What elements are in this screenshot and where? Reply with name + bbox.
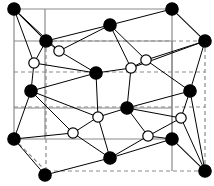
bond-A10-A6: [110, 139, 172, 158]
crystal-lattice-diagram: [0, 0, 214, 186]
bond-B6-A8: [181, 118, 205, 171]
filled-atom-corner-bottom-front-left: [8, 133, 20, 145]
bond-A9-B3: [110, 25, 131, 68]
filled-atom-face-right-upper: [184, 85, 196, 97]
crystal-structure-figure: [0, 0, 214, 186]
filled-atom-edge-top-mid: [104, 19, 116, 31]
filled-atom-corner-top-back-left: [40, 35, 52, 47]
bond-B4-A12: [146, 60, 190, 91]
bond-A11-A5: [14, 91, 31, 139]
bond-A9-B1: [59, 25, 110, 51]
atomic-bonds-group: [14, 9, 205, 175]
filled-atom-corner-top-back-right: [199, 35, 211, 47]
bond-A12-A4: [190, 41, 205, 91]
bond-A1-B1: [14, 9, 59, 51]
bond-A9-B4: [110, 25, 146, 60]
bond-A9-A2: [110, 9, 172, 25]
cell-solid-edges-group: [14, 9, 205, 171]
open-atoms-group: [29, 46, 186, 141]
open-atom-open-center-lower: [93, 112, 103, 122]
filled-atom-interior-upper: [90, 67, 102, 79]
open-atom-open-bottom-right: [143, 131, 153, 141]
filled-atom-edge-bottom-mid: [104, 152, 116, 164]
bond-A12-A14: [127, 91, 190, 108]
filled-atom-corner-bottom-back-left: [39, 169, 51, 181]
bond-A11-A13: [31, 73, 96, 91]
open-atom-open-right-lower: [176, 113, 186, 123]
filled-atom-corner-top-front-right: [166, 3, 178, 15]
bond-A5-A7: [14, 139, 45, 175]
filled-atoms-group: [8, 3, 211, 181]
bond-A11-B5: [31, 91, 98, 117]
filled-atom-corner-top-front-left: [8, 3, 20, 15]
bond-A1-B2: [14, 9, 34, 63]
filled-atom-face-left-upper: [25, 85, 37, 97]
bond-B7-A11: [31, 91, 73, 133]
bond-A2-A4: [172, 9, 205, 41]
open-atom-open-top-right-outer: [141, 55, 151, 65]
bond-A14-B6: [127, 108, 181, 118]
open-atom-open-top-right-inner: [126, 63, 136, 73]
bond-A3-A9: [46, 25, 110, 41]
bond-A7-A10: [45, 158, 110, 175]
open-atom-open-bottom-left: [68, 128, 78, 138]
open-atom-open-top-left: [54, 46, 64, 56]
open-atom-open-left-upper: [29, 58, 39, 68]
filled-atom-corner-bottom-front-right: [166, 133, 178, 145]
filled-atom-interior-lower: [121, 102, 133, 114]
filled-atom-corner-bottom-back-right: [199, 165, 211, 177]
bond-B7-A5: [14, 133, 73, 139]
